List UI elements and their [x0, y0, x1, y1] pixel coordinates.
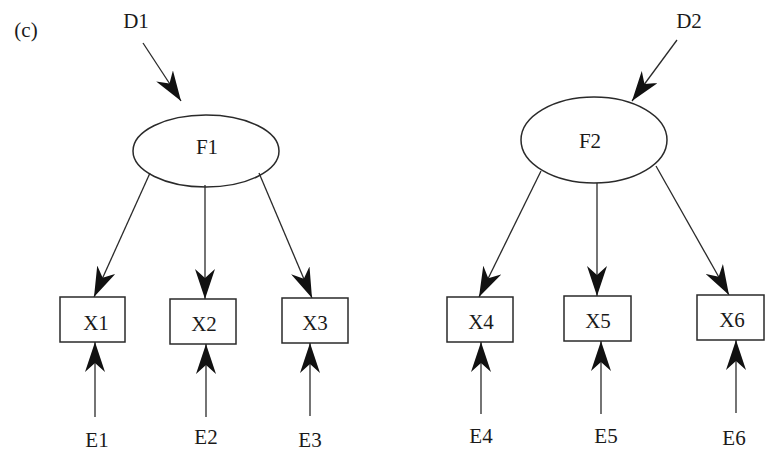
- panel-label: (c): [14, 20, 37, 41]
- edge-f1-x3: [259, 173, 312, 298]
- error-e3-label: E3: [298, 430, 321, 451]
- edge-f1-x1: [94, 173, 150, 297]
- model-2: [447, 40, 764, 414]
- error-e2-label: E2: [194, 427, 217, 448]
- error-e4-label: E4: [469, 426, 492, 447]
- indicator-x5-label: X5: [585, 311, 611, 332]
- disturbance-d1-label: D1: [123, 11, 149, 32]
- path-diagram: (c) D1 D2 F1 F2 X1 X2 X3 X4 X5 X6 E1 E2 …: [0, 0, 776, 466]
- indicator-x6-label: X6: [719, 310, 745, 331]
- error-e5-label: E5: [594, 426, 617, 447]
- error-e6-label: E6: [722, 428, 745, 449]
- indicator-x3-label: X3: [302, 313, 328, 334]
- edge-d1-f1: [143, 43, 181, 101]
- error-e1-label: E1: [85, 430, 108, 451]
- indicator-x4-label: X4: [468, 312, 494, 333]
- diagram-canvas: [0, 0, 776, 466]
- disturbance-d2-label: D2: [676, 11, 702, 32]
- indicator-x2-label: X2: [191, 314, 217, 335]
- factor-f2-label: F2: [579, 131, 601, 152]
- indicator-x1-label: X1: [83, 313, 109, 334]
- edge-f2-x4: [479, 171, 541, 297]
- edge-d2-f2: [632, 40, 677, 101]
- model-1: [60, 43, 348, 417]
- factor-f1-label: F1: [196, 137, 218, 158]
- edge-f2-x6: [656, 166, 729, 295]
